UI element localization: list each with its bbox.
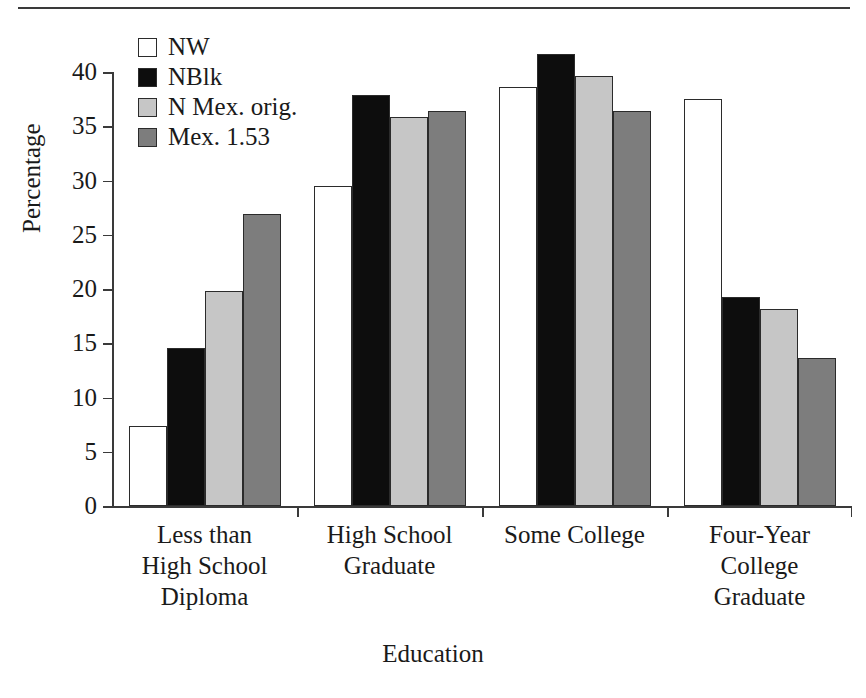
y-tick-label-0: 0	[37, 494, 97, 518]
y-tick-10: 10	[103, 398, 112, 400]
x-tick-end	[851, 506, 853, 517]
bar-2-nw	[314, 186, 352, 506]
bar-1-nblk	[167, 348, 205, 506]
y-tick-20: 20	[103, 289, 112, 291]
y-tick-label-5: 5	[37, 440, 97, 464]
y-tick-15: 15	[103, 343, 112, 345]
y-tick-35: 35	[103, 126, 112, 128]
bar-3-n-mex-orig	[575, 76, 613, 506]
y-tick-label-25: 25	[37, 223, 97, 247]
y-tick-0: 0	[103, 506, 112, 508]
legend-label-1: NW	[168, 34, 210, 60]
legend-item-2: NBlk	[138, 62, 297, 92]
bar-3-nw	[499, 87, 537, 506]
legend-swatch-icon-4	[138, 128, 157, 147]
legend-label-4: Mex. 1.53	[168, 124, 270, 150]
bar-2-mex-1-53	[428, 111, 466, 506]
bar-4-n-mex-orig	[760, 309, 798, 506]
legend-label-2: NBlk	[168, 64, 222, 90]
bar-3-nblk	[537, 54, 575, 506]
y-tick-label-10: 10	[37, 386, 97, 410]
y-tick-25: 25	[103, 235, 112, 237]
bar-1-nw	[129, 426, 167, 506]
category-label-4: Four-Year College Graduate	[667, 519, 852, 612]
bar-4-mex-1-53	[798, 358, 836, 506]
category-label-1: Less than High School Diploma	[112, 519, 297, 612]
bar-1-mex-1-53	[243, 214, 281, 506]
y-tick-label-15: 15	[37, 331, 97, 355]
y-tick-label-35: 35	[37, 114, 97, 138]
legend-item-3: N Mex. orig.	[138, 92, 297, 122]
x-tick-2	[482, 506, 484, 517]
x-tick-3	[667, 506, 669, 517]
legend-item-1: NW	[138, 32, 297, 62]
bar-4-nblk	[722, 297, 760, 506]
top-divider-rule	[18, 7, 850, 9]
y-tick-30: 30	[103, 181, 112, 183]
legend-item-4: Mex. 1.53	[138, 122, 297, 152]
bar-4-nw	[684, 99, 722, 506]
legend-label-3: N Mex. orig.	[168, 94, 297, 120]
bar-1-n-mex-orig	[205, 291, 243, 506]
figure-canvas: Percentage 0510152025303540 Less than Hi…	[0, 0, 866, 698]
category-label-3: Some College	[482, 519, 667, 550]
x-axis-title: Education	[0, 640, 866, 668]
bar-2-nblk	[352, 95, 390, 506]
bar-3-mex-1-53	[613, 111, 651, 506]
x-tick-1	[297, 506, 299, 517]
legend: NWNBlkN Mex. orig.Mex. 1.53	[138, 32, 297, 152]
legend-swatch-icon-2	[138, 68, 157, 87]
y-tick-label-20: 20	[37, 277, 97, 301]
y-tick-label-30: 30	[37, 169, 97, 193]
legend-swatch-icon-1	[138, 38, 157, 57]
y-tick-40: 40	[103, 72, 112, 74]
legend-swatch-icon-3	[138, 98, 157, 117]
category-label-2: High School Graduate	[297, 519, 482, 581]
y-tick-label-40: 40	[37, 60, 97, 84]
bar-2-n-mex-orig	[390, 117, 428, 507]
y-tick-5: 5	[103, 452, 112, 454]
